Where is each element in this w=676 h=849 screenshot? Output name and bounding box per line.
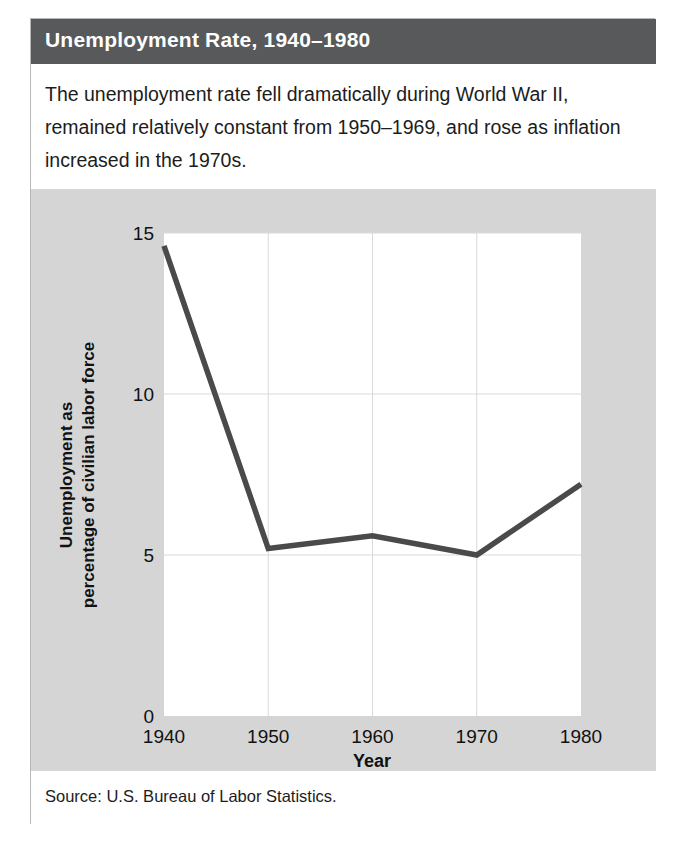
y-tick-label: 5 <box>143 545 154 566</box>
figure-title-bar: Unemployment Rate, 1940–1980 <box>31 19 656 64</box>
caption-text: The unemployment rate fell dramatically … <box>45 78 625 177</box>
x-axis-title: Year <box>353 751 391 771</box>
x-tick-label: 1950 <box>247 726 289 747</box>
chart-panel: Unemployment as percentage of civilian l… <box>31 189 656 771</box>
figure-container: Unemployment Rate, 1940–1980 The unemplo… <box>30 18 655 824</box>
x-tick-label: 1940 <box>143 726 185 747</box>
x-tick-label: 1960 <box>351 726 393 747</box>
line-chart: 05101519401950196019701980 Year <box>31 189 656 771</box>
x-tick-label: 1970 <box>456 726 498 747</box>
source-text: Source: U.S. Bureau of Labor Statistics. <box>45 787 337 806</box>
y-tick-label: 10 <box>133 384 154 405</box>
figure-caption: The unemployment rate fell dramatically … <box>31 64 656 189</box>
y-tick-label: 0 <box>143 706 154 727</box>
page-title: Unemployment Rate, 1940–1980 <box>45 28 370 52</box>
x-tick-label: 1980 <box>560 726 602 747</box>
figure-source-bar: Source: U.S. Bureau of Labor Statistics. <box>31 771 656 824</box>
y-tick-label: 15 <box>133 223 154 244</box>
